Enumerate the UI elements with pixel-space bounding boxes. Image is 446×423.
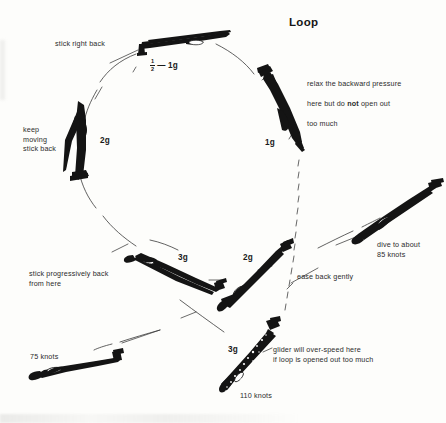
callout-relax-backward-pressure: relax the backward pressure here but do … xyxy=(307,69,401,129)
glider-left-climbing xyxy=(63,101,89,181)
g-label-half-to-1g: 1 2 — 1g xyxy=(150,58,178,72)
relax-line-3: too much xyxy=(307,119,338,128)
g-label-tail: — 1g xyxy=(157,61,178,70)
callout-stick-progressively-back: stick progressively back from here xyxy=(29,269,109,288)
page-title: Loop xyxy=(289,16,318,28)
relax-line-2-post: open out xyxy=(359,99,390,108)
scan-artifact-left-edge xyxy=(0,40,5,100)
callout-ease-back-gently: ease back gently xyxy=(297,272,353,282)
g-label-bottom-center-3g: 3g xyxy=(228,345,238,354)
glider-top-inverted xyxy=(137,30,231,56)
g-label-right-1g: 1g xyxy=(265,138,275,147)
fraction-denominator: 2 xyxy=(150,66,155,72)
g-label-bottom-left-3g: 3g xyxy=(178,253,188,262)
callout-dive-to-85-knots: dive to about 85 knots xyxy=(377,240,420,259)
glider-bottom-overspeed-110kt xyxy=(219,316,281,392)
glider-bottom-left-3g xyxy=(124,253,227,295)
speed-label-110-knots: 110 knots xyxy=(240,391,272,401)
g-label-left-2g: 2g xyxy=(100,136,110,145)
relax-line-2-bold: not xyxy=(347,99,359,108)
vertical-reference-dashed-line xyxy=(285,160,299,310)
glider-bottom-mid-2g xyxy=(217,238,294,312)
relax-line-2-pre: here but do xyxy=(307,99,347,108)
relax-line-1: relax the backward pressure xyxy=(307,79,401,88)
diagram-drawing-layer xyxy=(0,0,446,423)
callout-glider-overspeed: glider will over-speed here if loop is o… xyxy=(273,345,373,364)
scan-artifact-bottom xyxy=(0,414,300,423)
fraction-one-half: 1 2 xyxy=(150,58,155,72)
glider-right-diving xyxy=(351,178,444,244)
g-label-bottom-mid-2g: 2g xyxy=(243,253,253,262)
callout-keep-moving-stick-back: keep moving stick back xyxy=(23,125,56,154)
speed-label-75-knots: 75 knots xyxy=(30,352,58,362)
callout-stick-right-back: stick right back xyxy=(55,39,105,49)
loop-diagram-page: Loop stick right back 1 2 — 1g relax the… xyxy=(0,0,446,423)
fraction-numerator: 1 xyxy=(150,58,155,64)
